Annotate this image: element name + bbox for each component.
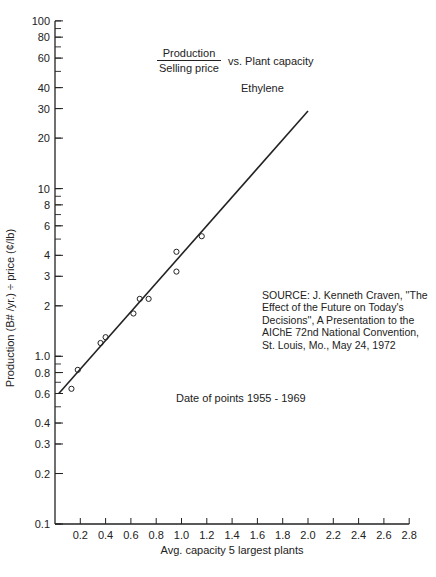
x-tick-label: 2.2 [326, 529, 341, 541]
source-line: SOURCE: J. Kenneth Craven, ''The [262, 289, 428, 301]
y-tick-label: 0.6 [35, 388, 50, 400]
x-tick-label: 2.0 [300, 529, 315, 541]
y-tick-label: 20 [38, 132, 50, 144]
x-tick-label: 1.4 [224, 529, 239, 541]
data-point [146, 296, 151, 301]
y-tick-label: 6 [44, 220, 50, 232]
y-tick-label: 40 [38, 82, 50, 94]
trend-line [59, 111, 308, 393]
source-line: Effect of the Future on Today's [262, 301, 428, 313]
x-axis-label: Avg. capacity 5 largest plants [161, 544, 304, 556]
source-line: AIChE 72nd National Convention, [262, 326, 428, 338]
x-tick-label: 2.6 [376, 529, 391, 541]
y-tick-label: 4 [44, 249, 50, 261]
y-tick-label: 0.1 [35, 518, 50, 530]
y-tick-label: 60 [38, 52, 50, 64]
title-numerator: Production [157, 46, 221, 61]
y-tick-label: 1.0 [35, 350, 50, 362]
y-tick-label: 0.2 [35, 468, 50, 480]
data-point [174, 249, 179, 254]
y-tick-label: 0.8 [35, 367, 50, 379]
y-tick-label: 10 [38, 183, 50, 195]
y-axis-label: Production (B# /yr.) ÷ price (¢/lb) [4, 229, 16, 387]
y-tick-label: 100 [32, 15, 50, 27]
x-tick-label: 1.2 [199, 529, 214, 541]
plot-area [59, 111, 308, 393]
y-tick-label: 2 [44, 300, 50, 312]
source-annotation: SOURCE: J. Kenneth Craven, ''The Effect … [262, 289, 428, 351]
y-tick-label: 30 [38, 103, 50, 115]
y-tick-label: 3 [44, 270, 50, 282]
source-line: Decisions'', A Presentation to the [262, 314, 428, 326]
x-tick-label: 2.8 [402, 529, 417, 541]
x-tick-label: 1.6 [250, 529, 265, 541]
x-tick-label: 0.6 [123, 529, 138, 541]
axes: 0.10.20.30.40.60.81.02346810203040608010… [32, 15, 417, 541]
y-tick-label: 80 [38, 31, 50, 43]
x-tick-label: 1.0 [174, 529, 189, 541]
y-tick-label: 0.4 [35, 417, 50, 429]
dates-annotation: Date of points 1955 - 1969 [176, 392, 306, 404]
title-suffix: vs. Plant capacity [228, 55, 314, 67]
y-tick-label: 0.3 [35, 438, 50, 450]
chart-title: Production Selling price vs. Plant capac… [157, 46, 314, 75]
chart-subtitle: Ethylene [241, 82, 284, 94]
x-tick-label: 1.8 [275, 529, 290, 541]
x-tick-label: 0.8 [149, 529, 164, 541]
y-tick-label: 8 [44, 199, 50, 211]
data-point [69, 386, 74, 391]
x-tick-label: 0.2 [73, 529, 88, 541]
x-tick-label: 0.4 [98, 529, 113, 541]
title-denominator: Selling price [157, 61, 221, 75]
source-line: St. Louis, Mo., May 24, 1972 [262, 339, 428, 351]
x-tick-label: 2.4 [351, 529, 366, 541]
data-point [174, 269, 179, 274]
title-fraction: Production Selling price [157, 46, 221, 75]
